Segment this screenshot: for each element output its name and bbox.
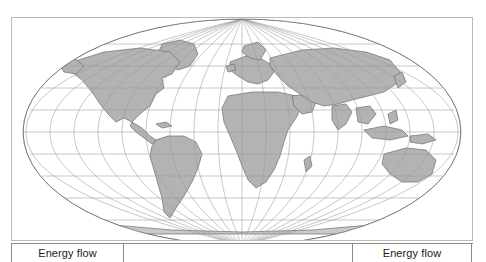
world-map-graphic bbox=[12, 18, 472, 240]
land-new-zealand bbox=[448, 170, 458, 186]
world-map-frame bbox=[11, 17, 473, 241]
table-cell-energy-flow-left[interactable]: Energy flow bbox=[11, 244, 124, 262]
table-cell-energy-flow-right[interactable]: Energy flow bbox=[353, 244, 472, 262]
table-cell-empty[interactable] bbox=[124, 244, 353, 262]
bottom-table: Energy flow Energy flow bbox=[11, 243, 473, 261]
